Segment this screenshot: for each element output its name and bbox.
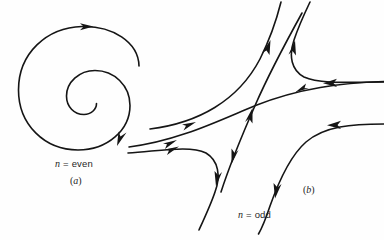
caption-panel-b: n = odd	[238, 210, 271, 220]
caption-b-value: odd	[255, 209, 271, 220]
caption-a-relation: =	[60, 158, 71, 169]
caption-b-relation: =	[243, 209, 254, 220]
panel-tag-b-close: )	[311, 184, 314, 195]
caption-a-value: even	[72, 158, 93, 169]
panel-tag-a-close: )	[78, 175, 81, 186]
phase-portrait-figure	[0, 0, 384, 240]
figure-background	[0, 0, 384, 240]
panel-tag-a: (a)	[70, 176, 82, 186]
caption-panel-a: n = even	[55, 159, 93, 169]
figure-root: n = even (a) n = odd (b)	[0, 0, 384, 240]
panel-tag-b: (b)	[303, 185, 315, 195]
